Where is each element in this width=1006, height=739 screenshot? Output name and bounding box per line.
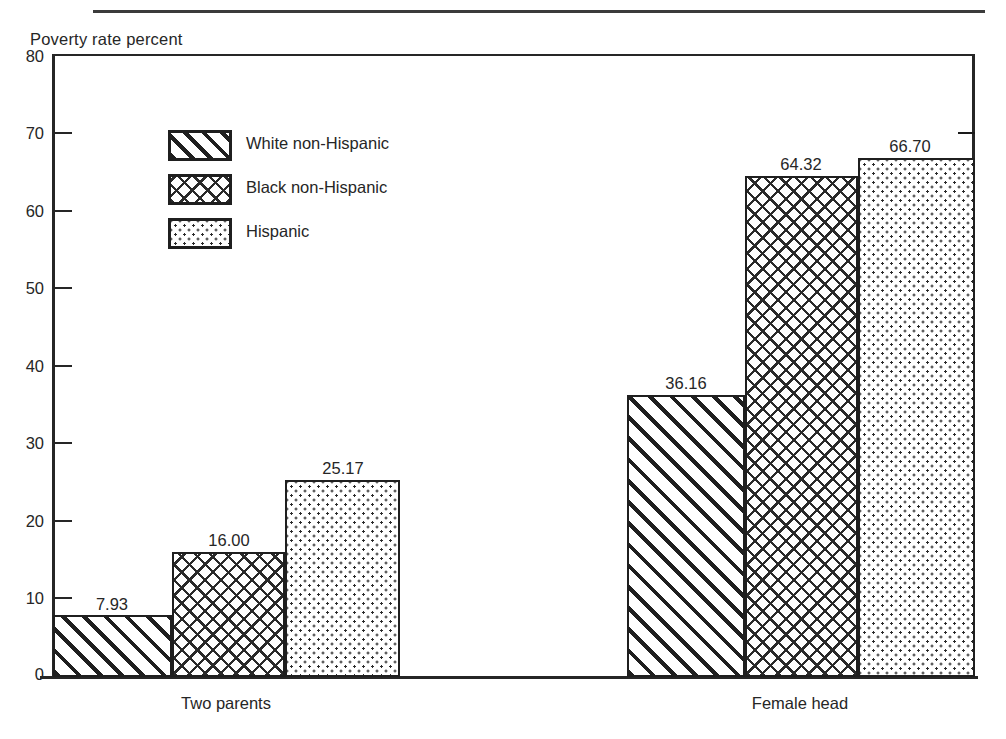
legend-label-hispanic: Hispanic (246, 222, 309, 241)
y-tick-80: 80 (8, 47, 44, 66)
y-tick-70: 70 (8, 124, 44, 143)
y-tickmark-right-70 (958, 132, 975, 134)
y-tickmark-left-10 (55, 597, 72, 599)
legend-swatch-dot-stipple-icon (168, 218, 232, 249)
bar-female-head-white (627, 395, 745, 677)
bar-female-head-black (745, 176, 858, 677)
y-tickmark-left-30 (55, 442, 72, 444)
y-axis-tick-labels: 80 70 60 50 40 30 20 10 0 (0, 0, 44, 739)
bar-value-two-parents-hispanic: 25.17 (322, 459, 363, 478)
x-group-label-female-head: Female head (752, 694, 848, 713)
legend-swatch-diagonal-hatch-icon (168, 130, 232, 161)
legend-swatch-cross-hatch-icon (168, 174, 232, 205)
bar-value-two-parents-white: 7.93 (96, 595, 128, 614)
poverty-rate-bar-chart: Poverty rate percent 80 70 60 50 40 30 2… (0, 0, 1006, 739)
y-tickmark-left-50 (55, 287, 72, 289)
y-tick-30: 30 (8, 434, 44, 453)
y-tickmark-left-60 (55, 210, 72, 212)
bar-two-parents-white (53, 615, 172, 677)
y-tickmark-left-70 (55, 132, 72, 134)
legend-label-white-non-hispanic: White non-Hispanic (246, 134, 389, 153)
bar-female-head-hispanic (858, 158, 975, 677)
y-tickmark-left-40 (55, 365, 72, 367)
bar-value-female-head-white: 36.16 (665, 374, 706, 393)
y-axis-title: Poverty rate percent (30, 30, 183, 49)
x-group-label-two-parents: Two parents (181, 694, 271, 713)
bar-two-parents-black (172, 552, 285, 677)
bar-value-female-head-black: 64.32 (780, 155, 821, 174)
y-tick-50: 50 (8, 279, 44, 298)
bar-two-parents-hispanic (285, 480, 400, 677)
legend-label-black-non-hispanic: Black non-Hispanic (246, 178, 387, 197)
top-divider-rule (93, 10, 985, 13)
bar-value-two-parents-black: 16.00 (208, 531, 249, 550)
bar-value-female-head-hispanic: 66.70 (889, 137, 930, 156)
y-tick-20: 20 (8, 512, 44, 531)
y-tick-10: 10 (8, 589, 44, 608)
y-tickmark-left-20 (55, 520, 72, 522)
y-tick-40: 40 (8, 357, 44, 376)
y-tick-0: 0 (8, 665, 44, 684)
y-tick-60: 60 (8, 202, 44, 221)
